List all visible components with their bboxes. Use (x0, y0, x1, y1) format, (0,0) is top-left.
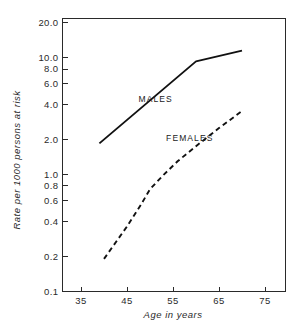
plot-frame (63, 19, 286, 292)
y-tick-label: 1.0 (44, 169, 58, 180)
y-tick-label: 4.0 (44, 99, 58, 110)
y-axis-title: Rate per 1000 persons at risk (11, 90, 22, 230)
y-tick-label: 0.4 (44, 216, 58, 227)
y-tick-label: 8.0 (44, 63, 58, 74)
y-tick-label: 6.0 (44, 78, 58, 89)
x-tick-label: 75 (259, 295, 270, 306)
y-tick-label: 2.0 (44, 134, 58, 145)
series-label-males: MALES (139, 94, 173, 104)
series-annotations: MALESFEMALES (139, 94, 214, 143)
x-tick-label: 55 (167, 295, 178, 306)
y-tick-label: 10.0 (38, 52, 58, 63)
x-tick-label: 45 (121, 295, 132, 306)
y-tick-label: 0.2 (44, 251, 58, 262)
y-tick-label: 0.6 (44, 195, 58, 206)
x-axis-title: Age in years (143, 309, 203, 320)
y-tick-label: 0.1 (44, 286, 58, 297)
y-axis: 20.010.08.06.04.02.01.00.80.60.40.20.1 (38, 17, 67, 297)
y-tick-label: 0.8 (44, 180, 58, 191)
y-tick-label: 20.0 (38, 17, 58, 28)
series-label-females: FEMALES (166, 133, 213, 143)
x-tick-label: 35 (75, 295, 86, 306)
x-tick-label: 65 (213, 295, 224, 306)
chart-figure: 20.010.08.06.04.02.01.00.80.60.40.20.1 3… (0, 0, 297, 329)
data-series-group (99, 51, 242, 259)
chart-svg: 20.010.08.06.04.02.01.00.80.60.40.20.1 3… (0, 0, 297, 329)
x-axis: 3545556575 (75, 287, 270, 306)
